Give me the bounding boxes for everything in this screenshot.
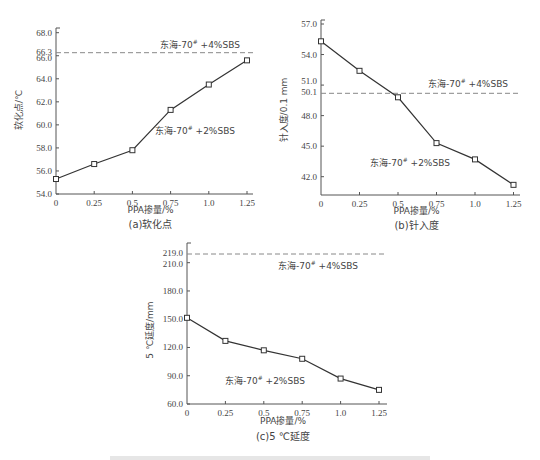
x-tick-label: 0 bbox=[185, 408, 190, 418]
data-point-marker bbox=[223, 338, 228, 343]
x-tick-label: 1.25 bbox=[506, 199, 522, 209]
series-line bbox=[56, 60, 247, 179]
x-axis-label: PPA掺量/% bbox=[393, 205, 439, 216]
y-tick-label: 60.0 bbox=[36, 120, 52, 130]
y-tick-label: 51.0 bbox=[301, 76, 317, 86]
data-point-marker bbox=[245, 58, 250, 63]
x-axis-label: PPA掺量/% bbox=[127, 204, 173, 215]
data-point-marker bbox=[54, 177, 59, 182]
y-tick-label: 54.0 bbox=[301, 50, 317, 60]
y-axis-label: 5 ℃延度/mm bbox=[144, 301, 155, 358]
data-point-marker bbox=[185, 315, 190, 320]
data-point-marker bbox=[92, 162, 97, 167]
data-point-marker bbox=[473, 157, 478, 162]
x-tick-label: 1.25 bbox=[371, 408, 387, 418]
y-tick-label: 48.0 bbox=[301, 111, 317, 121]
reference-label: 东海-70# +4%SBS bbox=[278, 259, 358, 271]
chart-c: 60.090.0120.0150.0180.0210.0219.000.250.… bbox=[144, 243, 387, 442]
data-point-marker bbox=[357, 68, 362, 73]
x-tick-label: 1.25 bbox=[239, 198, 255, 208]
x-tick-label: 0.25 bbox=[218, 408, 234, 418]
y-tick-label: 60.0 bbox=[167, 399, 183, 409]
data-point-marker bbox=[377, 387, 382, 392]
figure: 54.056.058.060.062.064.066.066.368.000.2… bbox=[0, 0, 540, 460]
data-point-marker bbox=[434, 141, 439, 146]
y-axis-label: 针入度/0.1 mm bbox=[278, 78, 289, 143]
figure-caption-clipped bbox=[110, 456, 430, 460]
y-tick-label: 57.0 bbox=[301, 19, 317, 29]
reference-label: 东海-70# +4%SBS bbox=[428, 77, 508, 89]
y-tick-label: 42.0 bbox=[301, 172, 317, 182]
y-tick-label: 50.1 bbox=[301, 87, 317, 97]
y-tick-label: 90.0 bbox=[167, 371, 183, 381]
chart-b: 42.045.048.050.151.054.057.000.250.50.75… bbox=[278, 19, 522, 231]
subfigure-caption: (b)针入度 bbox=[394, 219, 438, 231]
y-axis-label: 软化点/℃ bbox=[13, 90, 24, 130]
y-tick-label: 180.0 bbox=[163, 286, 184, 296]
x-tick-label: 1.0 bbox=[469, 199, 481, 209]
y-tick-label: 150.0 bbox=[163, 314, 184, 324]
x-axis-label: PPA掺量/% bbox=[260, 415, 306, 426]
series-label: 东海-70# +2%SBS bbox=[370, 156, 450, 168]
data-point-marker bbox=[338, 376, 343, 381]
subfigure-caption: (c)5 ℃延度 bbox=[256, 430, 310, 442]
y-tick-label: 54.0 bbox=[36, 189, 52, 199]
data-point-marker bbox=[300, 356, 305, 361]
x-tick-label: 0 bbox=[54, 198, 59, 208]
x-tick-label: 0.25 bbox=[86, 198, 102, 208]
y-tick-label: 58.0 bbox=[36, 143, 52, 153]
y-tick-label: 219.0 bbox=[163, 248, 184, 258]
data-point-marker bbox=[511, 182, 516, 187]
y-tick-label: 210.0 bbox=[163, 259, 184, 269]
series-label: 东海-70# +2%SBS bbox=[225, 374, 305, 386]
y-tick-label: 120.0 bbox=[163, 342, 184, 352]
series-label: 东海-70# +2%SBS bbox=[155, 124, 235, 136]
data-point-marker bbox=[396, 95, 401, 100]
data-point-marker bbox=[261, 348, 266, 353]
data-point-marker bbox=[206, 82, 211, 87]
x-tick-label: 0.25 bbox=[352, 199, 368, 209]
y-tick-label: 45.0 bbox=[301, 141, 317, 151]
subfigure-caption: (a)软化点 bbox=[129, 218, 173, 230]
data-point-marker bbox=[130, 148, 135, 153]
y-tick-label: 68.0 bbox=[36, 28, 52, 38]
x-tick-label: 1.0 bbox=[335, 408, 347, 418]
x-tick-label: 0 bbox=[319, 199, 324, 209]
data-point-marker bbox=[168, 107, 173, 112]
reference-label: 东海-70# +4%SBS bbox=[160, 38, 240, 50]
chart-a: 54.056.058.060.062.064.066.066.368.000.2… bbox=[13, 28, 255, 230]
y-tick-label: 56.0 bbox=[36, 166, 52, 176]
data-point-marker bbox=[319, 39, 324, 44]
x-tick-label: 1.0 bbox=[203, 198, 215, 208]
y-tick-label: 64.0 bbox=[36, 74, 52, 84]
y-tick-label: 62.0 bbox=[36, 97, 52, 107]
y-tick-label: 66.3 bbox=[36, 47, 52, 57]
